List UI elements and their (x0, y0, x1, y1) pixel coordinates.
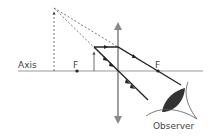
lens-diagram: Axis F F Observer (0, 0, 211, 139)
ray-center (94, 47, 148, 100)
observer-label: Observer (153, 121, 195, 131)
axis-label: Axis (18, 60, 37, 70)
focal-label-left: F (73, 60, 78, 70)
observer-eye-icon (146, 82, 197, 119)
focal-label-right: F (155, 60, 160, 70)
virtual-ray-1 (54, 8, 118, 47)
diagram-canvas: Axis F F Observer (0, 0, 211, 139)
ray-parallel (94, 47, 181, 85)
